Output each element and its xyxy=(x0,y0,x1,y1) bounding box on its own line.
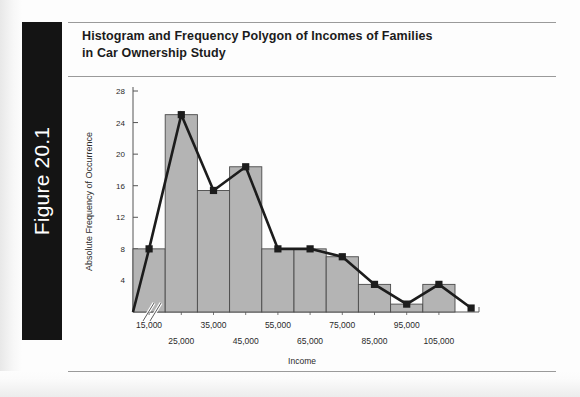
histogram-bar xyxy=(133,249,165,312)
polygon-data-marker xyxy=(307,245,314,252)
figure-page: Figure 20.1 Histogram and Frequency Poly… xyxy=(0,0,580,397)
x-axis-title: Income xyxy=(288,356,316,366)
polygon-data-marker xyxy=(435,281,442,288)
page-edge-shading-left xyxy=(0,0,22,397)
histogram-bar xyxy=(423,284,455,312)
y-axis-title: Absolute Frequency of Occurrence xyxy=(84,132,94,271)
histogram-bar xyxy=(294,249,326,312)
svg-text:4: 4 xyxy=(121,276,126,285)
svg-text:28: 28 xyxy=(116,87,125,96)
x-axis-tick-labels: 15,00025,00035,00045,00055,00065,00075,0… xyxy=(136,320,454,346)
polygon-data-marker xyxy=(178,111,185,118)
chart-plot-area: 481216202428 15,00025,00035,00045,00055,… xyxy=(68,80,556,370)
polygon-data-marker xyxy=(339,253,346,260)
figure-number-tab: Figure 20.1 xyxy=(22,22,62,340)
title-rule-bottom xyxy=(68,76,556,77)
x-axis-tick-label: 45,000 xyxy=(233,336,259,346)
polygon-data-marker xyxy=(274,245,281,252)
x-axis-tick-label: 35,000 xyxy=(201,320,227,330)
histogram-bar xyxy=(358,284,390,312)
x-axis-tick-label: 85,000 xyxy=(362,336,388,346)
x-axis-tick-label: 105,000 xyxy=(424,336,455,346)
polygon-data-marker xyxy=(242,163,249,170)
figure-rule-bottom xyxy=(68,371,556,372)
histogram-frequency-polygon-chart: 481216202428 15,00025,00035,00045,00055,… xyxy=(68,80,556,370)
polygon-data-marker xyxy=(468,304,475,311)
histogram-bar xyxy=(230,167,262,312)
polygon-data-marker xyxy=(146,245,153,252)
x-axis-tick-label: 55,000 xyxy=(265,320,291,330)
svg-text:24: 24 xyxy=(116,119,125,128)
svg-text:8: 8 xyxy=(121,245,126,254)
figure-number-label: Figure 20.1 xyxy=(30,127,54,235)
svg-text:16: 16 xyxy=(116,182,125,191)
svg-text:12: 12 xyxy=(116,213,125,222)
x-axis-tick-label: 65,000 xyxy=(297,336,323,346)
polygon-data-marker xyxy=(403,301,410,308)
polygon-data-marker xyxy=(210,187,217,194)
x-axis-tick-label: 95,000 xyxy=(394,320,420,330)
title-rule-top xyxy=(68,22,556,23)
x-axis-tick-label: 15,000 xyxy=(136,320,162,330)
x-axis-tick-label: 25,000 xyxy=(168,336,194,346)
figure-title-line-2: in Car Ownership Study xyxy=(82,45,512,62)
x-axis-tick-label: 75,000 xyxy=(329,320,355,330)
histogram-bars xyxy=(133,115,455,312)
y-axis-tick-labels: 481216202428 xyxy=(116,87,125,285)
histogram-bar xyxy=(262,249,294,312)
figure-title-line-1: Histogram and Frequency Polygon of Incom… xyxy=(82,29,433,43)
polygon-data-marker xyxy=(371,281,378,288)
figure-title: Histogram and Frequency Polygon of Incom… xyxy=(82,28,512,62)
page-edge-shading-bottom xyxy=(0,371,580,397)
svg-text:20: 20 xyxy=(116,150,125,159)
histogram-bar xyxy=(197,190,229,312)
